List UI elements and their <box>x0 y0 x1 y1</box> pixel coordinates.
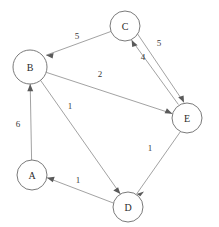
edge-e-d: 1 <box>137 132 181 197</box>
edge-e-c: 4 <box>132 40 179 104</box>
edge-weight-d-a: 1 <box>76 175 81 185</box>
edge-weight-b-d: 1 <box>68 101 73 111</box>
graph-svg: 5 2 5 4 <box>0 0 219 227</box>
node-c[interactable]: C <box>110 11 140 41</box>
node-label-c: C <box>122 21 129 32</box>
edge-weight-c-e: 5 <box>157 38 162 48</box>
node-b[interactable]: B <box>13 50 47 84</box>
edge-c-e: 5 <box>138 34 184 103</box>
arrowhead-d-a <box>47 177 55 183</box>
edge-weight-e-c: 4 <box>141 52 146 62</box>
edge-b-e: 2 <box>46 69 172 114</box>
arrowhead-b-d <box>113 187 120 194</box>
arrowhead-b-e <box>165 108 173 114</box>
node-label-b: B <box>27 62 34 73</box>
edge-line-a-b <box>30 84 31 160</box>
edge-line-b-e <box>46 72 172 113</box>
edge-b-d: 1 <box>41 80 121 194</box>
edge-a-b: 6 <box>16 84 33 160</box>
edge-line-e-d <box>137 132 181 195</box>
edge-weight-c-b: 5 <box>75 31 80 41</box>
nodes-layer: A B C D E <box>13 11 202 222</box>
node-e[interactable]: E <box>172 103 202 133</box>
edge-weight-b-e: 2 <box>98 69 103 79</box>
node-label-e: E <box>184 113 190 124</box>
edge-weight-a-b: 6 <box>16 119 21 129</box>
arrowhead-c-e <box>178 96 184 103</box>
graph-diagram-canvas: 5 2 5 4 <box>0 0 219 227</box>
node-a[interactable]: A <box>17 160 47 190</box>
arrowhead-a-b <box>27 84 33 91</box>
edge-line-b-d <box>41 80 121 194</box>
edge-d-a: 1 <box>47 175 113 203</box>
edge-line-e-c <box>132 40 179 104</box>
edge-c-b: 5 <box>46 31 111 59</box>
node-label-d: D <box>124 202 131 213</box>
node-label-a: A <box>28 170 36 181</box>
node-d[interactable]: D <box>113 192 143 222</box>
edge-weight-e-d: 1 <box>148 143 153 153</box>
arrowhead-e-c <box>132 40 138 47</box>
